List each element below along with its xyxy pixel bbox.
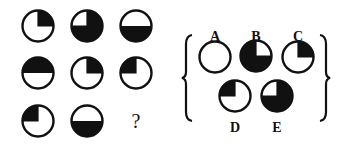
option-e[interactable] [262,81,293,112]
option-label-a: A [210,29,221,44]
option-a[interactable] [200,42,231,73]
option-label-e: E [272,120,281,135]
left-brace [182,35,192,121]
grid-cell-r2c3 [121,58,152,89]
option-label-c: C [293,29,303,44]
grid-cell-r2c1 [23,58,54,89]
option-label-b: B [251,29,260,44]
grid-cell-r1c1 [23,11,54,42]
grid-cell-r3c2 [72,106,103,137]
answer-options: ABCDE [200,29,314,135]
grid-cell-r2c2 [72,58,103,89]
option-label-d: D [230,120,240,135]
puzzle-canvas: ? ABCDE [0,0,346,146]
grid-cell-r1c3 [121,11,152,42]
option-d[interactable] [220,81,251,112]
grid-cell-r3c1 [23,106,54,137]
right-brace [320,35,330,121]
question-mark: ? [132,110,141,132]
option-b[interactable] [241,41,272,72]
grid-cell-r1c2 [72,11,103,42]
option-c[interactable] [283,42,314,73]
